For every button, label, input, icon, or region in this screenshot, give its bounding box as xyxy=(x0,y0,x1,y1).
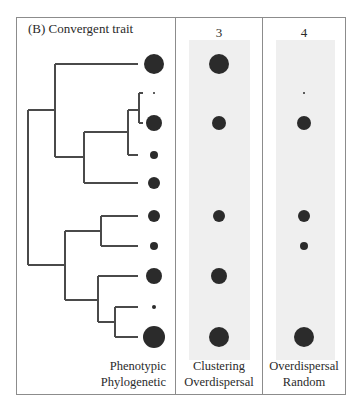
trait-dot xyxy=(144,54,164,74)
label-line-1: Clustering xyxy=(176,358,262,374)
trait-dot xyxy=(300,242,308,250)
trait-dot xyxy=(152,305,156,309)
phylogeny-column-label: Phenotypic Phylogenetic xyxy=(80,358,166,390)
trait-dot xyxy=(146,268,162,284)
trait-dot xyxy=(303,92,305,94)
trait-dot xyxy=(146,115,162,131)
label-line-1: Overdispersal xyxy=(262,358,346,374)
trait-dots xyxy=(143,54,314,348)
trait-dot xyxy=(213,210,225,222)
trait-dot xyxy=(211,268,227,284)
trait-dot xyxy=(298,210,310,222)
trait-dot xyxy=(212,116,226,130)
phylogeny-and-traits xyxy=(0,0,363,418)
column-4-label: Overdispersal Random xyxy=(262,358,346,390)
label-line-2: Overdispersal xyxy=(176,374,262,390)
trait-dot xyxy=(297,116,311,130)
trait-dot xyxy=(143,326,165,348)
phylogenetic-tree xyxy=(28,64,143,337)
column-3-label: Clustering Overdispersal xyxy=(176,358,262,390)
trait-dot xyxy=(209,54,229,74)
trait-dot xyxy=(294,327,314,347)
label-line-2: Phylogenetic xyxy=(80,374,166,390)
trait-dot xyxy=(150,151,158,159)
label-line-1: Phenotypic xyxy=(80,358,166,374)
trait-dot xyxy=(153,92,155,94)
trait-dot xyxy=(148,177,160,189)
label-line-2: Random xyxy=(262,374,346,390)
trait-dot xyxy=(209,327,229,347)
trait-dot xyxy=(148,210,160,222)
trait-dot xyxy=(150,242,158,250)
